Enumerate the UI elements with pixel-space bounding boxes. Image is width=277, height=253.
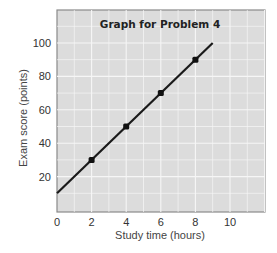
x-tick-label: 8 [192, 216, 198, 228]
y-axis-ticks: 20406080100 [33, 37, 51, 183]
x-tick-label: 4 [123, 216, 129, 228]
x-tick-label: 6 [158, 216, 164, 228]
x-tick-label: 0 [54, 216, 60, 228]
chart-title: Graph for Problem 4 [100, 18, 220, 30]
y-tick-label: 100 [33, 37, 51, 49]
data-point [89, 157, 95, 163]
y-tick-label: 40 [39, 137, 51, 149]
x-axis-ticks: 0246810 [54, 216, 236, 228]
y-tick-label: 60 [39, 104, 51, 116]
x-tick-label: 10 [224, 216, 236, 228]
chart: Graph for Problem 4 0246810 20406080100 … [0, 0, 277, 253]
data-point [123, 124, 129, 130]
y-tick-label: 20 [39, 171, 51, 183]
x-axis-label: Study time (hours) [115, 229, 205, 241]
data-point [192, 57, 198, 63]
y-axis-label: Exam score (points) [17, 69, 29, 167]
y-tick-label: 80 [39, 70, 51, 82]
x-tick-label: 2 [89, 216, 95, 228]
data-point [158, 90, 164, 96]
